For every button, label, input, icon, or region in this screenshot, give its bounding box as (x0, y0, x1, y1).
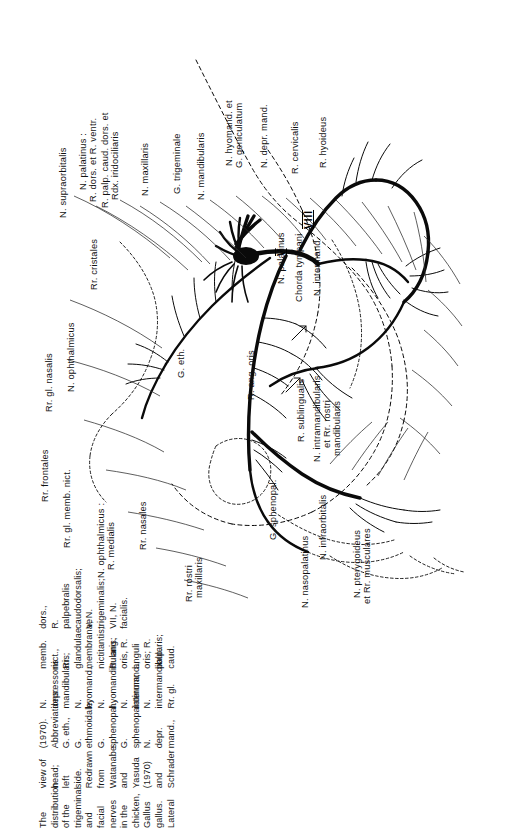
label-n-intramandibularis: N. intramandibularis (312, 375, 322, 462)
label-n-maxillaris: N. maxillaris (140, 143, 150, 196)
label-r-dors-et-r-ventr: R. dors. et R. ventr. (88, 118, 98, 202)
label-rr-gl-memb-nict: Rr. gl. memb. nict. (62, 469, 72, 548)
label-n-infraorbitalis: N. infraorbitalis (318, 495, 328, 560)
label-n-pterygoideus: N. pterygoideus (352, 530, 362, 598)
label-n-ophthalmicus-2: N. ophthalmicus : (96, 503, 106, 578)
label-et-rr-rostri: et Rr. rostri (322, 400, 332, 448)
label-rr-gl-nasalis: Rr. gl. nasalis (44, 353, 54, 412)
label-g-trigeminale: G. trigeminale (172, 133, 182, 194)
label-r-medialis: R. medialis (106, 522, 116, 570)
label-g-eth: G. eth. (176, 349, 186, 378)
figure-caption: The distribution of the trigeminal and f… (38, 596, 188, 828)
nerve-fine-branches (126, 142, 448, 532)
label-r-ang-oris: R. ang. oris (246, 350, 256, 400)
label-n-hyomand-et: N. hyomand. et (224, 100, 234, 166)
label-n-supraorbitalis: N. supraorbitalis (58, 147, 68, 218)
label-chorda-tympani: Chorda tympani (294, 234, 304, 302)
label-r-hyoideus: R. hyoideus (318, 117, 328, 168)
figure-panel: V VIII Rr. gl. nasalis N. ophthalmicus R… (0, 0, 519, 838)
label-n-palatinus-right: N. palatinus (276, 233, 286, 285)
label-g-sphenopal: G. sphenopal. (268, 480, 278, 541)
label-n-nasopalatinus: N. nasopalatinus (300, 536, 310, 608)
label-r-sublingualis: R. sublingualis (296, 379, 306, 442)
label-g-geniculatum: G. geniculatum (234, 103, 244, 168)
label-et-rr-musculares: et Rr. musculares (362, 528, 372, 604)
caption-body: The distribution of the trigeminal and f… (38, 568, 176, 828)
label-r-palp-caud-dors-et: R. palp. caud. dors. et (100, 112, 110, 208)
label-rr-frontales: Rr. frontales (40, 449, 50, 502)
label-rr-cristales: Rr. cristales (89, 239, 99, 290)
label-n-mandibularis: N. mandibularis (196, 132, 206, 200)
label-n-ophthalmicus: N. ophthalmicus (66, 322, 76, 392)
label-rr-nasales: Rr. nasales (138, 501, 148, 550)
label-n-intermand: N. intermand. (312, 238, 322, 296)
cranial-nerve-marker-viii: VIII (303, 210, 314, 229)
label-n-palatinus: N. palatinus : (78, 133, 88, 190)
label-rdx-iridociliaris: Rdx. iridociliaris (110, 131, 120, 200)
label-n-depr-mand: N. depr. mand. (259, 104, 269, 168)
label-mandibularis-sub: mandibularis (332, 401, 342, 456)
label-r-cervicalis: R. cervicalis (290, 121, 300, 174)
label-leader-lines (68, 196, 462, 598)
label-maxillaris-sub: maxillaris (194, 557, 204, 598)
